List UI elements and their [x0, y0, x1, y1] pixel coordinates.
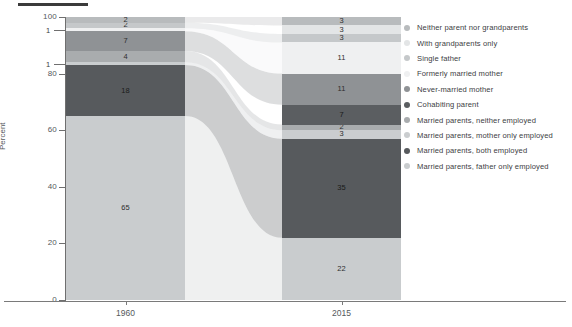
legend-swatch-icon [404, 40, 410, 46]
legend-label: Formerly married mother [417, 69, 503, 78]
legend-label: With grandparents only [417, 39, 497, 48]
legend-item[interactable]: Cohabiting parent [404, 97, 572, 112]
legend-item[interactable]: Single father [404, 51, 572, 66]
legend-item[interactable]: Married parents, both employed [404, 143, 572, 158]
bar-segment[interactable]: 4 [66, 51, 185, 62]
bar-segment[interactable]: 7 [66, 31, 185, 51]
x-tick [126, 301, 127, 305]
segment-value-label: 11 [282, 85, 401, 93]
legend-label: Never-married mother [417, 85, 493, 94]
bar-segment[interactable]: 3 [282, 130, 401, 138]
stacked-bar-2015[interactable]: 22353271111333 [282, 17, 401, 300]
legend-label: Married parents, mother only employed [417, 131, 553, 140]
legend-swatch-icon [404, 132, 410, 138]
legend-swatch-icon [404, 25, 410, 31]
segment-value-label: 3 [282, 34, 401, 42]
legend-item[interactable]: With grandparents only [404, 35, 572, 50]
segment-value-label: 2 [66, 23, 185, 29]
legend-swatch-icon [404, 102, 410, 108]
legend-swatch-icon [404, 117, 410, 123]
x-axis-line [4, 301, 566, 302]
segment-value-label: 7 [66, 37, 185, 45]
bar-segment[interactable] [66, 62, 185, 65]
legend-swatch-icon [404, 163, 410, 169]
segment-value-label: 7 [282, 111, 401, 119]
segment-value-label: 22 [282, 265, 401, 273]
legend: Neither parent nor grandparentsWith gran… [404, 20, 572, 174]
y-tick-label: 0 [17, 295, 57, 304]
y-axis-title: Percent [0, 122, 7, 150]
y-axis-labels: 020406080100 [0, 0, 57, 327]
bar-segment[interactable]: 2 [282, 125, 401, 131]
bar-segment[interactable]: 2 [66, 23, 185, 29]
bar-segment[interactable]: 18 [66, 65, 185, 116]
chart-root: 020406080100 Percent 65184722 2235327111… [0, 0, 572, 327]
legend-label: Single father [417, 54, 461, 63]
legend-label: Married parents, father only employed [417, 162, 549, 171]
stacked-bar-1960[interactable]: 65184722 [66, 17, 185, 300]
leader-value-label: 1 [46, 25, 50, 34]
leader-line [54, 30, 66, 31]
segment-value-label: 11 [282, 54, 401, 62]
flow-ribbons [185, 17, 282, 300]
legend-item[interactable]: Neither parent nor grandparents [404, 20, 572, 35]
bar-segment[interactable]: 3 [282, 34, 401, 42]
segment-value-label: 3 [282, 17, 401, 25]
plot-area: 65184722 22353271111333 [66, 17, 411, 300]
leader-line [54, 64, 66, 65]
x-tick-label: 1960 [116, 308, 135, 318]
bar-segment[interactable]: 2 [66, 17, 185, 23]
segment-value-label: 2 [66, 17, 185, 23]
bar-segment[interactable]: 11 [282, 74, 401, 105]
bar-segment[interactable]: 65 [66, 116, 185, 300]
legend-item[interactable]: Formerly married mother [404, 66, 572, 81]
y-tick-label: 60 [17, 125, 57, 134]
legend-label: Married parents, both employed [417, 146, 527, 155]
legend-label: Cohabiting parent [417, 100, 479, 109]
segment-value-label: 35 [282, 184, 401, 192]
bar-segment[interactable]: 7 [282, 105, 401, 125]
legend-swatch-icon [404, 148, 410, 154]
segment-value-label: 3 [282, 26, 401, 34]
legend-swatch-icon [404, 86, 410, 92]
legend-label: Neither parent nor grandparents [417, 23, 528, 32]
segment-value-label: 2 [282, 125, 401, 131]
segment-value-label: 65 [66, 204, 185, 212]
x-tick [342, 301, 343, 305]
legend-swatch-icon [404, 71, 410, 77]
legend-item[interactable]: Married parents, father only employed [404, 159, 572, 174]
ribbon-group [185, 17, 282, 300]
bar-segment[interactable]: 11 [282, 42, 401, 73]
segment-value-label: 18 [66, 87, 185, 95]
segment-value-label: 3 [282, 131, 401, 139]
x-tick-label: 2015 [332, 308, 351, 318]
y-tick-label: 40 [17, 182, 57, 191]
bar-segment[interactable]: 22 [282, 238, 401, 300]
y-tick-label: 20 [17, 238, 57, 247]
leader-value-label: 1 [46, 59, 50, 68]
legend-item[interactable]: Married parents, neither employed [404, 112, 572, 127]
legend-item[interactable]: Never-married mother [404, 82, 572, 97]
bar-segment[interactable]: 3 [282, 25, 401, 33]
segment-value-label: 4 [66, 53, 185, 61]
legend-label: Married parents, neither employed [417, 116, 536, 125]
legend-item[interactable]: Married parents, mother only employed [404, 128, 572, 143]
y-tick-label: 100 [17, 12, 57, 21]
legend-swatch-icon [404, 55, 410, 61]
bar-segment[interactable]: 3 [282, 17, 401, 25]
y-tick-label: 80 [17, 69, 57, 78]
bar-segment[interactable]: 35 [282, 139, 401, 238]
bar-segment[interactable] [66, 28, 185, 31]
